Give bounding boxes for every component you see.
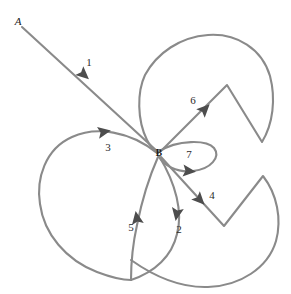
arrowhead-edge-6 [196,100,214,118]
graph-diagram-canvas: 1234567 AB [0,0,291,294]
edge-label-5: 5 [128,221,134,233]
edge-label-3: 3 [105,141,111,153]
edge-label-2: 2 [176,223,182,235]
arrowhead-edge-2 [170,207,184,222]
arrowheads-layer [75,66,214,225]
edge-label-6: 6 [190,94,196,106]
edge-path-4 [131,157,278,287]
arrowhead-edge-1 [75,66,93,84]
edge-label-1: 1 [86,56,92,68]
node-label-B: B [156,148,163,158]
edge-path-6 [139,35,273,153]
edges-layer [22,27,278,287]
edge-label-7: 7 [186,148,192,160]
edge-path-3 [39,131,157,280]
node-label-A: A [14,15,22,27]
edge-path-1 [22,27,158,152]
graph-svg: 1234567 AB [0,0,291,294]
edge-label-4: 4 [209,189,215,201]
